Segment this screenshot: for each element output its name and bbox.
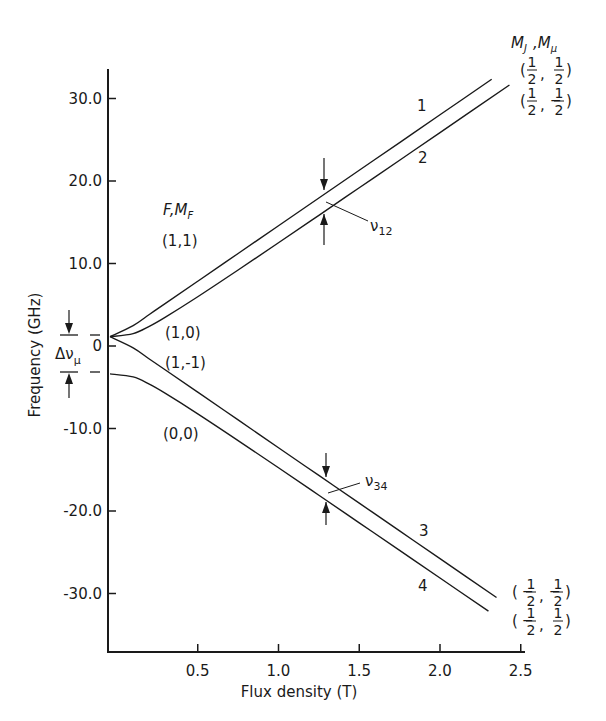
denominator: 2 xyxy=(554,622,563,638)
label-fmf-0-0: (0,0) xyxy=(163,425,199,443)
line-number-2: 2 xyxy=(418,149,428,167)
hf-label-1-mj: 12 xyxy=(527,54,537,87)
y-tick-label: -20.0 xyxy=(63,502,102,520)
zeeman-chart: 30.020.010.00-10.0-20.0-30.0 0.51.01.52.… xyxy=(0,0,606,721)
numerator: 1 xyxy=(555,54,564,70)
x-tick-label: 2.0 xyxy=(428,662,452,680)
x-tick-label: 0.5 xyxy=(186,662,210,680)
numerator: 1 xyxy=(554,576,563,592)
arrow-up-nu12-head xyxy=(320,214,328,225)
open-paren: ( xyxy=(512,612,518,630)
svg-text:Δνμ: Δνμ xyxy=(55,345,81,367)
open-paren: ( xyxy=(512,583,518,601)
denominator: 2 xyxy=(527,622,536,638)
comma: , xyxy=(539,616,544,634)
label-nu12: ν12 xyxy=(326,202,392,238)
close-paren: ) xyxy=(565,612,571,630)
x-ticks: 0.51.01.52.02.5 xyxy=(186,644,533,680)
open-paren: ( xyxy=(520,92,526,110)
numerator: 1 xyxy=(554,605,563,621)
hf-label-4-mmu: 12 xyxy=(553,605,563,638)
label-fmf-1-1: (1,1) xyxy=(162,232,198,250)
numerator: 1 xyxy=(555,85,564,101)
numerator: 1 xyxy=(528,54,537,70)
open-paren: ( xyxy=(520,61,526,79)
svg-text:ν34: ν34 xyxy=(365,472,387,493)
svg-text:ν12: ν12 xyxy=(370,217,392,238)
label-nu34: ν34 xyxy=(328,472,387,493)
arrow-down-nu12-head xyxy=(320,179,328,190)
x-tick-label: 2.5 xyxy=(509,662,533,680)
arrow-up-nu34-head xyxy=(322,502,330,513)
curves xyxy=(110,79,509,611)
hf-label-2-mj: 12 xyxy=(527,85,537,118)
high-field-labels: (,)1212(,)12−12(,)−12−12(,)−1212 xyxy=(512,54,572,638)
hf-label-4-mj: −12 xyxy=(522,605,536,638)
numerator: 1 xyxy=(527,605,536,621)
y-tick-label: 0 xyxy=(92,337,102,355)
label-fmf-1-0: (1,0) xyxy=(165,324,201,342)
denominator: 2 xyxy=(528,102,537,118)
hf-label-1-mmu: 12 xyxy=(554,54,564,87)
denominator: 2 xyxy=(555,102,564,118)
line-number-3: 3 xyxy=(419,522,429,540)
label-fmf-1-m1: (1,-1) xyxy=(165,354,206,372)
comma: , xyxy=(540,96,545,114)
close-paren: ) xyxy=(566,61,572,79)
energy-level-line-3 xyxy=(110,337,497,598)
close-paren: ) xyxy=(566,92,572,110)
line-number-4: 4 xyxy=(418,577,428,595)
y-tick-label: 10.0 xyxy=(69,255,102,273)
numerator: 1 xyxy=(528,85,537,101)
y-tick-label: 30.0 xyxy=(69,90,102,108)
y-tick-label: 20.0 xyxy=(69,172,102,190)
x-tick-label: 1.5 xyxy=(347,662,371,680)
close-paren: ) xyxy=(565,583,571,601)
comma: , xyxy=(539,587,544,605)
y-axis-label: Frequency (GHz) xyxy=(26,293,44,418)
x-axis-label: Flux density (T) xyxy=(241,683,358,701)
svg-text:F,MF: F,MF xyxy=(163,201,193,221)
y-tick-label: -30.0 xyxy=(63,585,102,603)
arrow-down-nu34-head xyxy=(322,466,330,477)
comma: , xyxy=(540,65,545,83)
mj-mmu-header: MJ,Mμ xyxy=(511,34,557,54)
x-tick-label: 1.0 xyxy=(267,662,291,680)
hf-label-2-mmu: −12 xyxy=(550,85,564,118)
energy-level-line-4 xyxy=(110,374,488,611)
svg-text:MJ,Mμ: MJ,Mμ xyxy=(511,34,557,54)
numerator: 1 xyxy=(527,576,536,592)
line-number-1: 1 xyxy=(417,97,427,115)
y-tick-label: -10.0 xyxy=(63,420,102,438)
f-mf-header: F,MF xyxy=(163,201,193,221)
